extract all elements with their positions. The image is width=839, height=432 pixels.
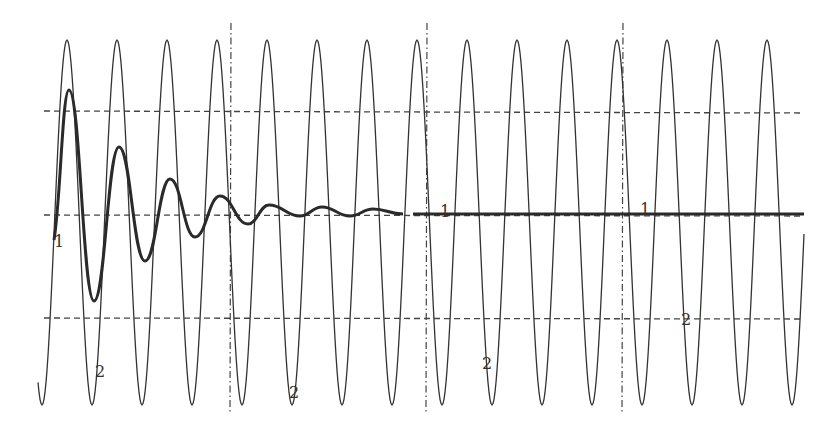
vertical-marker-lines [230, 23, 623, 412]
curve-label-1: 1 [640, 200, 650, 219]
curve-2-sinusoid [38, 40, 804, 405]
curve-label-2: 2 [482, 354, 492, 373]
curve-label-2: 2 [289, 383, 299, 402]
dashdot-marker-line [426, 23, 427, 412]
dashdot-marker-line [230, 23, 231, 412]
curve-label-2: 2 [95, 362, 105, 381]
oscillation-chart: 1112222 [0, 0, 839, 432]
curve-label-2: 2 [681, 310, 691, 329]
curve-labels: 1112222 [54, 200, 691, 402]
curve-label-1: 1 [54, 232, 64, 251]
curve-label-1: 1 [440, 202, 450, 221]
